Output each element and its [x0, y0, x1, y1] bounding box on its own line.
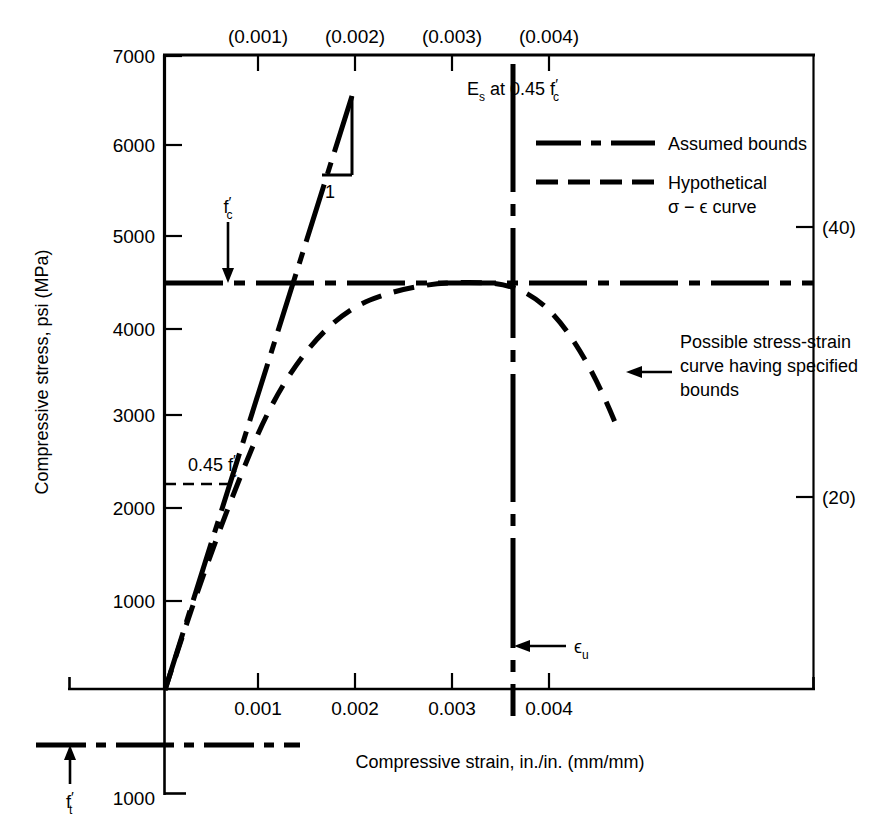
y-axis-title: Compressive stress, psi (MPa) [32, 249, 52, 494]
left-tick-label-7000: 7000 [113, 46, 155, 67]
bottom-tick-label-3: 0.004 [525, 698, 573, 719]
left-tick-label-5000: 5000 [113, 226, 155, 247]
left-tick-label-6000: 6000 [113, 135, 155, 156]
top-tick-label-2: (0.003) [422, 26, 482, 47]
left-tick-label-2000: 2000 [113, 498, 155, 519]
fc-label-sub: c [226, 208, 232, 222]
possible-curve-label-line3: bounds [680, 380, 739, 400]
stress-strain-figure: (0.001) (0.002) (0.003) (0.004) 0.001 0.… [0, 0, 885, 822]
right-tick-label-20mpa: (20) [822, 487, 856, 508]
top-tick-label-3: (0.004) [519, 26, 579, 47]
x-axis-title: Compressive strain, in./in. (mm/mm) [355, 752, 644, 772]
chart-svg: (0.001) (0.002) (0.003) (0.004) 0.001 0.… [0, 0, 885, 822]
label-045fc-sub: c [231, 466, 237, 480]
label-es-E: E [467, 79, 479, 99]
legend-label-hypothetical-line2: σ − ϵ curve [668, 197, 757, 217]
eu-label-sub: u [582, 648, 589, 662]
possible-curve-label-line1: Possible stress-strain [680, 332, 851, 352]
slope-unit-label: 1 [325, 182, 335, 202]
right-tick-label-40mpa: (40) [822, 217, 856, 238]
legend-label-assumed-bounds: Assumed bounds [668, 134, 807, 154]
left-tick-label-3000: 3000 [113, 405, 155, 426]
left-tick-label-1000: 1000 [113, 591, 155, 612]
top-tick-label-1: (0.002) [325, 26, 385, 47]
label-es-fc-sub: c [553, 90, 559, 104]
label-es-at: at 0.45 f [485, 79, 556, 99]
top-tick-label-0: (0.001) [228, 26, 288, 47]
bottom-tick-label-1: 0.002 [331, 698, 379, 719]
bottom-tick-label-0: 0.001 [234, 698, 282, 719]
left-tick-label-4000: 4000 [113, 319, 155, 340]
label-045fc-text: 0.45 f [188, 455, 234, 475]
eu-label-eps: ϵ [574, 637, 582, 657]
legend-label-hypothetical-line1: Hypothetical [668, 173, 767, 193]
bottom-tick-label-2: 0.003 [428, 698, 476, 719]
ft-tick-label-1000: 1000 [113, 788, 155, 809]
possible-curve-label-line2: curve having specified [680, 356, 858, 376]
